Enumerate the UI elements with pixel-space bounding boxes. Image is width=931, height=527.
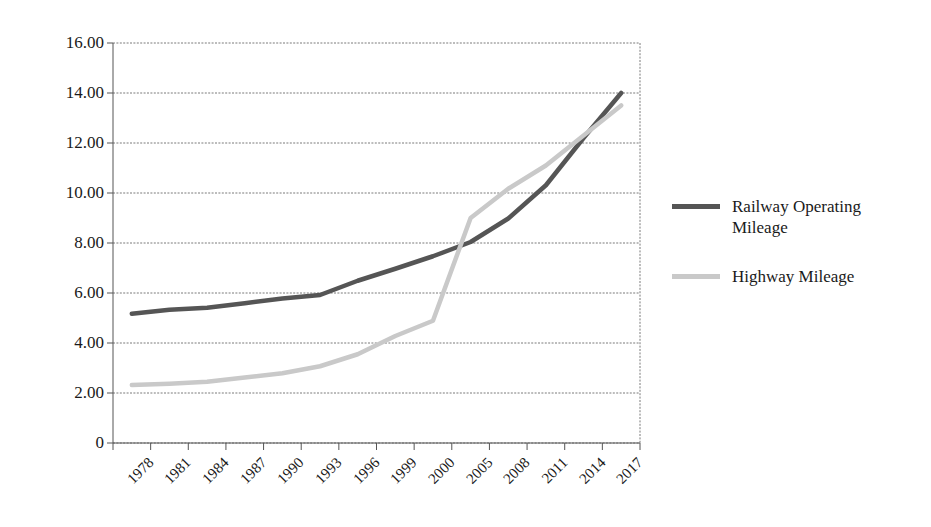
- y-axis-tick-label: 0: [18, 434, 104, 451]
- y-axis-tick-label: 10.00: [18, 184, 104, 201]
- x-axis-ticks-group: [113, 443, 640, 450]
- y-axis-tick-label: 16.00: [18, 34, 104, 51]
- legend-label-railway: Railway Operating Mileage: [732, 196, 902, 238]
- y-axis-ticks-group: [107, 43, 113, 443]
- chart-legend: Railway Operating Mileage Highway Mileag…: [672, 196, 922, 315]
- y-axis-tick-label: 8.00: [18, 234, 104, 251]
- y-axis-tick-label: 2.00: [18, 384, 104, 401]
- legend-swatch-railway: [672, 204, 720, 209]
- y-axis-tick-label: 4.00: [18, 334, 104, 351]
- legend-item-highway[interactable]: Highway Mileage: [672, 266, 922, 287]
- legend-item-railway[interactable]: Railway Operating Mileage: [672, 196, 922, 238]
- y-axis-tick-label: 12.00: [18, 134, 104, 151]
- y-axis-tick-label: 6.00: [18, 284, 104, 301]
- series-line-railway: [132, 93, 621, 314]
- legend-swatch-highway: [672, 274, 720, 279]
- legend-label-highway: Highway Mileage: [732, 266, 854, 287]
- chart-container: 16.0014.0012.0010.008.006.004.002.000 19…: [0, 0, 931, 527]
- series-lines-group: [132, 93, 621, 385]
- y-axis-tick-label: 14.00: [18, 84, 104, 101]
